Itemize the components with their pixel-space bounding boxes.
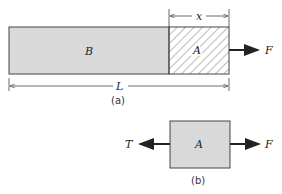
segment-a-label: A — [192, 44, 201, 57]
segment-b-label: B — [84, 45, 93, 58]
force-label-b: F — [264, 138, 273, 151]
free-body-a-label: A — [194, 138, 203, 151]
tension-label: T — [125, 138, 134, 151]
l-dim-label: L — [115, 80, 123, 93]
caption-a: (a) — [111, 95, 125, 106]
force-label-a: F — [264, 44, 273, 57]
figure-b: A T F (b) — [125, 121, 273, 186]
caption-b: (b) — [191, 175, 205, 186]
diagram-canvas: B A F x L (a) A T F (b) — [0, 0, 282, 194]
figure-a: B A F x L (a) — [9, 9, 273, 106]
x-dim-label: x — [196, 10, 203, 23]
